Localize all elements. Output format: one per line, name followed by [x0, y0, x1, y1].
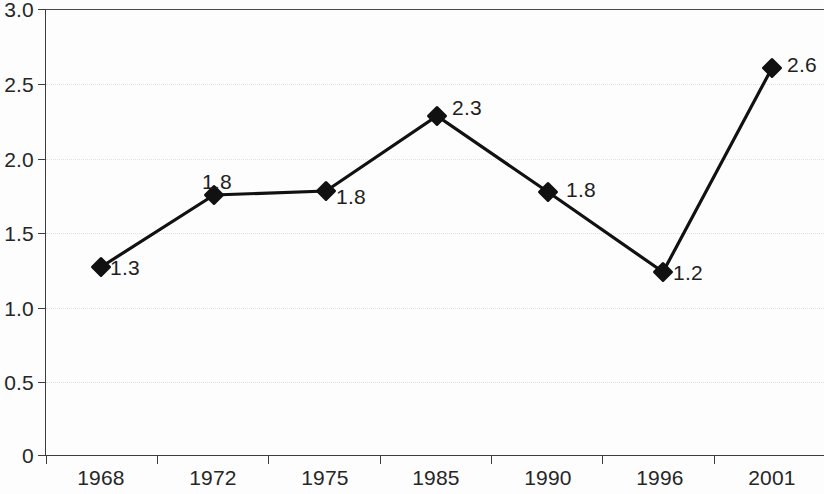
gridline-0.5	[46, 382, 824, 383]
y-axis-label-0.5: 0.5	[0, 371, 34, 395]
y-axis-label-0: 0	[0, 444, 34, 468]
x-axis-line	[45, 455, 824, 456]
data-label-1996: 1.2	[673, 261, 703, 285]
x-axis-label-1975: 1975	[301, 466, 349, 490]
gridline-1.0	[46, 308, 824, 309]
x-axis-label-1972: 1972	[189, 466, 237, 490]
x-tick-3	[380, 455, 381, 464]
y-axis-label-2.0: 2.0	[0, 148, 34, 172]
y-tick-2.0	[38, 159, 46, 160]
x-axis-label-1968: 1968	[77, 466, 125, 490]
y-tick-0.5	[38, 382, 46, 383]
x-tick-0	[46, 455, 47, 464]
data-label-2001: 2.6	[787, 53, 817, 77]
x-axis-label-1996: 1996	[636, 466, 684, 490]
x-axis-label-2001: 2001	[748, 466, 796, 490]
x-tick-2	[268, 455, 269, 464]
x-axis-label-1990: 1990	[524, 466, 572, 490]
y-axis-label-1.0: 1.0	[0, 297, 34, 321]
data-label-1968: 1.3	[110, 256, 140, 280]
y-axis-label-2.5: 2.5	[0, 73, 34, 97]
data-label-1990: 1.8	[566, 178, 596, 202]
y-tick-1.0	[38, 308, 46, 309]
x-tick-1	[157, 455, 158, 464]
data-label-1985: 2.3	[452, 96, 482, 120]
x-axis-label-1985: 1985	[412, 466, 460, 490]
gridline-2.0	[46, 159, 824, 160]
y-axis-label-3.0: 3.0	[0, 0, 34, 22]
data-label-1972: 1.8	[202, 170, 232, 194]
plot-top-border	[46, 9, 824, 10]
gridline-2.5	[46, 84, 824, 85]
y-axis-label-1.5: 1.5	[0, 222, 34, 246]
x-tick-6	[714, 455, 715, 464]
gridline-1.5	[46, 233, 824, 234]
x-tick-5	[602, 455, 603, 464]
y-tick-3.0	[38, 9, 46, 10]
y-tick-1.5	[38, 233, 46, 234]
data-label-1975: 1.8	[336, 185, 366, 209]
y-tick-0	[38, 455, 46, 456]
y-tick-2.5	[38, 84, 46, 85]
plot-area	[46, 9, 824, 455]
x-tick-4	[491, 455, 492, 464]
line-chart: 3.0 2.5 2.0 1.5 1.0 0.5 0 1968 1972 1975…	[0, 0, 824, 494]
